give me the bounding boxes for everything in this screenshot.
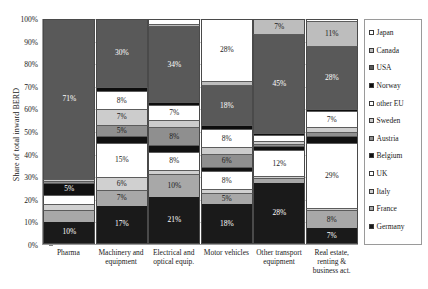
bar-segment[interactable]: 7% bbox=[96, 190, 148, 206]
bar-column[interactable]: 17%7%6%15%5%7%8%30% bbox=[96, 19, 148, 244]
bar-segment[interactable]: 10% bbox=[148, 174, 200, 197]
bar-segment[interactable] bbox=[43, 204, 95, 211]
bar-segment[interactable]: 45% bbox=[253, 34, 305, 132]
legend-item[interactable]: Sweden bbox=[369, 112, 421, 130]
bar-segment-label: 11% bbox=[325, 30, 338, 38]
bar-segment[interactable] bbox=[43, 195, 95, 204]
y-axis-tick-label: 90% bbox=[10, 38, 38, 45]
bar-segment[interactable]: 12% bbox=[253, 150, 305, 176]
bar-segment-label: 8% bbox=[222, 135, 232, 143]
bar-segment[interactable]: 28% bbox=[201, 19, 253, 81]
bar-segment[interactable]: 10% bbox=[43, 222, 95, 245]
legend-item-label: Japan bbox=[377, 28, 394, 37]
legend-item[interactable]: other EU bbox=[369, 94, 421, 112]
bar-segment[interactable]: 8% bbox=[148, 127, 200, 145]
legend-item[interactable]: Italy bbox=[369, 182, 421, 200]
bar-segment[interactable] bbox=[96, 136, 148, 143]
legend-swatch-icon bbox=[369, 83, 374, 88]
legend: JapanCanadaUSANorwayother EUSwedenAustri… bbox=[364, 19, 422, 245]
x-axis-category-label: Pharma bbox=[42, 248, 95, 275]
bar-group: 10%5%71%17%7%6%15%5%7%8%30%21%10%8%8%7%3… bbox=[43, 19, 358, 244]
bar-column[interactable]: 21%10%8%8%7%34% bbox=[148, 19, 200, 244]
bar-segment[interactable]: 17% bbox=[96, 206, 148, 244]
bar-segment[interactable]: 18% bbox=[201, 204, 253, 244]
bar-segment[interactable]: 8% bbox=[201, 129, 253, 147]
bar-segment[interactable]: 21% bbox=[148, 197, 200, 244]
bar-segment-label: 7% bbox=[274, 23, 284, 31]
bar-segment-label: 12% bbox=[272, 160, 286, 168]
bar-segment-label: 15% bbox=[115, 156, 129, 164]
legend-item-label: other EU bbox=[377, 99, 404, 108]
y-axis-tick-label: 0% bbox=[10, 242, 38, 249]
legend-swatch-icon bbox=[369, 153, 374, 158]
legend-item-label: Sweden bbox=[377, 116, 401, 125]
bar-segment[interactable]: 6% bbox=[201, 154, 253, 167]
bar-segment[interactable]: 34% bbox=[148, 26, 200, 103]
bar-segment[interactable]: 8% bbox=[201, 171, 253, 189]
legend-item[interactable]: Germany bbox=[369, 218, 421, 236]
legend-item[interactable]: Canada bbox=[369, 42, 421, 60]
x-axis-category-label: Machinery and equipment bbox=[95, 248, 148, 275]
bar-segment[interactable]: 28% bbox=[306, 46, 358, 109]
legend-item[interactable]: Austria bbox=[369, 130, 421, 148]
legend-swatch-icon bbox=[369, 206, 374, 211]
bar-segment-label: 7% bbox=[117, 194, 127, 202]
legend-item[interactable]: Japan bbox=[369, 24, 421, 42]
bar-segment-label: 34% bbox=[167, 61, 181, 69]
bar-segment[interactable] bbox=[306, 136, 358, 143]
bar-segment[interactable]: 71% bbox=[43, 19, 95, 179]
bar-segment-label: 18% bbox=[220, 220, 234, 228]
legend-item-label: Belgium bbox=[377, 151, 403, 160]
bar-segment[interactable] bbox=[43, 210, 95, 221]
stacked-bar-chart: Share of total inward BERD 100%90%80%70%… bbox=[0, 0, 428, 289]
bar-segment[interactable] bbox=[148, 120, 200, 127]
y-axis-tick-labels: 100%90%80%70%60%50%40%30%20%10%0% bbox=[10, 19, 38, 245]
bar-segment[interactable]: 5% bbox=[201, 193, 253, 204]
bar-segment[interactable]: 7% bbox=[306, 111, 358, 127]
bar-segment[interactable]: 11% bbox=[306, 21, 358, 46]
bar-segment-label: 45% bbox=[272, 80, 286, 88]
bar-segment[interactable]: 7% bbox=[148, 105, 200, 121]
bar-segment[interactable]: 29% bbox=[306, 143, 358, 208]
bar-segment-label: 28% bbox=[220, 46, 234, 54]
y-axis-tick-label: 30% bbox=[10, 174, 38, 181]
bar-segment[interactable]: 7% bbox=[306, 228, 358, 244]
legend-item[interactable]: Belgium bbox=[369, 147, 421, 165]
bar-segment-label: 7% bbox=[327, 232, 337, 240]
legend-swatch-icon bbox=[369, 136, 374, 141]
bar-segment[interactable]: 7% bbox=[96, 109, 148, 125]
bar-segment[interactable]: 5% bbox=[43, 183, 95, 194]
bar-segment[interactable] bbox=[201, 147, 253, 154]
bar-column[interactable]: 18%5%8%6%8%18%28% bbox=[201, 19, 253, 244]
legend-item-label: UK bbox=[377, 169, 388, 178]
y-axis-tick-mark bbox=[49, 245, 53, 246]
x-axis-category-label: Motor vehicles bbox=[200, 248, 253, 275]
bar-segment[interactable]: 30% bbox=[96, 19, 148, 87]
bar-segment-label: 71% bbox=[62, 95, 76, 103]
bar-segment[interactable]: 28% bbox=[253, 183, 305, 244]
bar-segment-label: 21% bbox=[167, 216, 181, 224]
bar-segment[interactable]: 18% bbox=[201, 85, 253, 125]
bar-segment[interactable]: 8% bbox=[96, 91, 148, 109]
legend-item[interactable]: UK bbox=[369, 165, 421, 183]
bar-segment[interactable]: 8% bbox=[306, 210, 358, 228]
y-axis-tick-label: 50% bbox=[10, 129, 38, 136]
bar-segment[interactable]: 8% bbox=[148, 152, 200, 170]
bar-segment[interactable]: 6% bbox=[96, 177, 148, 191]
legend-item[interactable]: France bbox=[369, 200, 421, 218]
bar-segment[interactable]: 5% bbox=[96, 125, 148, 136]
bar-column[interactable]: 7%8%29%7%28%11% bbox=[306, 19, 358, 244]
bar-segment-label: 8% bbox=[169, 157, 179, 165]
bar-segment[interactable] bbox=[148, 145, 200, 152]
bar-segment-label: 8% bbox=[117, 97, 127, 105]
y-axis-tick-label: 70% bbox=[10, 83, 38, 90]
x-axis-category-label: Other transport equipment bbox=[253, 248, 306, 275]
bar-column[interactable]: 10%5%71% bbox=[43, 19, 95, 244]
bar-segment[interactable]: 15% bbox=[96, 143, 148, 177]
bar-segment[interactable]: 7% bbox=[253, 19, 305, 34]
legend-item-label: Norway bbox=[377, 81, 401, 90]
bar-column[interactable]: 28%12%45%7% bbox=[253, 19, 305, 244]
legend-item[interactable]: Norway bbox=[369, 77, 421, 95]
bar-segment-label: 18% bbox=[220, 102, 234, 110]
legend-item[interactable]: USA bbox=[369, 59, 421, 77]
